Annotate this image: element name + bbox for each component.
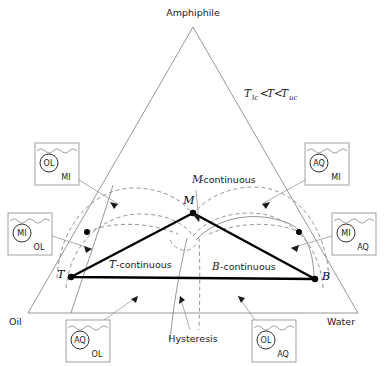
beaker-mi-in-aq: MI AQ xyxy=(332,213,376,255)
inner-vertex-label-b: B xyxy=(321,270,330,283)
arrowhead-mi-ol xyxy=(84,246,92,253)
arrowhead-ol-aq xyxy=(238,296,245,303)
inner-vertex-label-t: T xyxy=(57,268,66,281)
condition-sub-lc: lc xyxy=(252,94,258,102)
beaker-aq-in-mi-continuous: MI xyxy=(331,173,340,182)
arrowhead-m-continuous xyxy=(194,215,200,222)
temperature-condition-annotation: T lc < T < T uc xyxy=(244,87,298,102)
beaker-aq-in-ol: AQ OL xyxy=(66,320,110,362)
beaker-ol-in-aq-continuous: AQ xyxy=(277,350,289,359)
three-phase-triangle xyxy=(71,213,315,279)
beaker-aq-in-ol-dispersed: AQ xyxy=(74,336,86,345)
t-node-dot xyxy=(68,274,74,280)
beaker-mi-in-ol-dispersed: MI xyxy=(17,229,26,238)
inner-vertex-label-m: M xyxy=(182,194,195,207)
vertex-label-water: Water xyxy=(327,316,355,327)
right-node-dot xyxy=(296,229,302,235)
arrowhead-aq-ol xyxy=(131,296,138,303)
inner-triangle-outline xyxy=(71,213,315,279)
hysteresis-curve-solid xyxy=(170,238,187,340)
hysteresis-label: Hysteresis xyxy=(168,333,217,344)
b-continuous-rest: -continuous xyxy=(220,261,276,272)
beaker-mi-in-ol-continuous: OL xyxy=(34,243,45,252)
t-continuous-rest: -continuous xyxy=(116,259,172,270)
beaker-aq-in-mi-dispersed: AQ xyxy=(313,159,325,168)
condition-t-lower: T xyxy=(244,87,252,99)
condition-t-upper: T xyxy=(281,87,289,99)
sub-apex-loop xyxy=(170,240,196,250)
beaker-mi-in-ol: MI OL xyxy=(8,213,52,255)
beaker-ol-in-mi: OL MI xyxy=(35,143,79,185)
region-label-b-continuous: B -continuous xyxy=(211,260,276,272)
beaker-mi-in-aq-dispersed: MI xyxy=(341,229,350,238)
m-continuous-rest: -continuous xyxy=(200,174,256,185)
vertex-label-oil: Oil xyxy=(9,316,22,327)
beaker-ol-in-aq: OL AQ xyxy=(252,320,296,362)
region-label-t-continuous: T -continuous xyxy=(109,258,172,270)
diagram-canvas: Amphiphile Oil Water T lc < T < T uc M T… xyxy=(0,0,387,366)
beaker-aq-in-ol-continuous: OL xyxy=(92,350,103,359)
beaker-ol-in-mi-continuous: MI xyxy=(61,173,70,182)
beaker-ol-in-aq-dispersed: OL xyxy=(261,336,272,345)
hysteresis-curve-dashed xyxy=(199,238,200,330)
beaker-mi-in-aq-continuous: AQ xyxy=(357,243,369,252)
ternary-phase-diagram: Amphiphile Oil Water T lc < T < T uc M T… xyxy=(0,0,387,366)
apex-node-dot xyxy=(190,210,196,216)
left-node-dot xyxy=(84,229,90,235)
arrowhead-mi-aq xyxy=(291,245,299,252)
beaker-aq-in-mi: AQ MI xyxy=(305,143,349,185)
b-continuous-prefix: B xyxy=(211,260,220,272)
vertex-label-amphiphile: Amphiphile xyxy=(166,7,220,18)
b-node-dot xyxy=(312,276,318,282)
beaker-ol-in-mi-dispersed: OL xyxy=(44,159,55,168)
region-label-m-continuous: M -continuous xyxy=(191,173,256,185)
condition-sub-uc: uc xyxy=(289,94,298,102)
